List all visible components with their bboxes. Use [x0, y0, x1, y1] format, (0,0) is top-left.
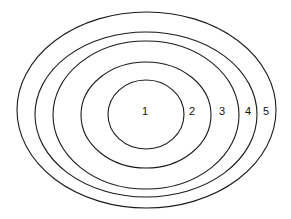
- nested-ellipses-diagram: 1 2 3 4 5: [0, 0, 291, 219]
- ring-label-1: 1: [142, 105, 148, 117]
- ring-label-4: 4: [245, 105, 251, 117]
- ring-label-5: 5: [263, 105, 269, 117]
- ring-label-3: 3: [219, 105, 225, 117]
- ring-label-2: 2: [189, 105, 195, 117]
- labels-group: 1 2 3 4 5: [142, 105, 269, 117]
